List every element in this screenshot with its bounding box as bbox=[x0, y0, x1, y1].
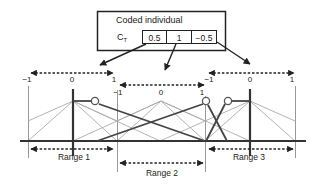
zero-lines bbox=[73, 89, 250, 156]
range-labels: Range 1 Range 2 Range 3 bbox=[58, 152, 265, 178]
axis2-mid: 0 bbox=[159, 88, 164, 97]
gene-2: 1 bbox=[177, 33, 182, 43]
range-2-label: Range 2 bbox=[146, 168, 178, 178]
axis-labels: −1 0 1 −1 0 1 −1 0 1 bbox=[22, 75, 294, 97]
axis1-mid: 0 bbox=[70, 75, 75, 84]
gene-3: −0.5 bbox=[196, 33, 213, 43]
axis3-mid: 0 bbox=[248, 75, 253, 84]
axis3-min: −1 bbox=[204, 75, 214, 84]
axis2-max: 1 bbox=[200, 88, 205, 97]
coded-individual-box: Coded individual CT 0.5 1 −0.5 bbox=[98, 12, 226, 51]
range-1-label: Range 1 bbox=[58, 152, 90, 162]
decoded-membership-functions bbox=[73, 101, 250, 141]
range-3-label: Range 3 bbox=[233, 152, 265, 162]
membership-triangles bbox=[28, 101, 295, 141]
box-title: Coded individual bbox=[116, 15, 183, 25]
membership-function-diagram: Coded individual CT 0.5 1 −0.5 −1 0 1 −1… bbox=[0, 0, 316, 187]
gene-1: 0.5 bbox=[149, 33, 161, 43]
axis3-max: 1 bbox=[290, 75, 295, 84]
axis1-max: 1 bbox=[112, 75, 117, 84]
axis1-min: −1 bbox=[22, 75, 32, 84]
axis2-min: −1 bbox=[113, 88, 123, 97]
